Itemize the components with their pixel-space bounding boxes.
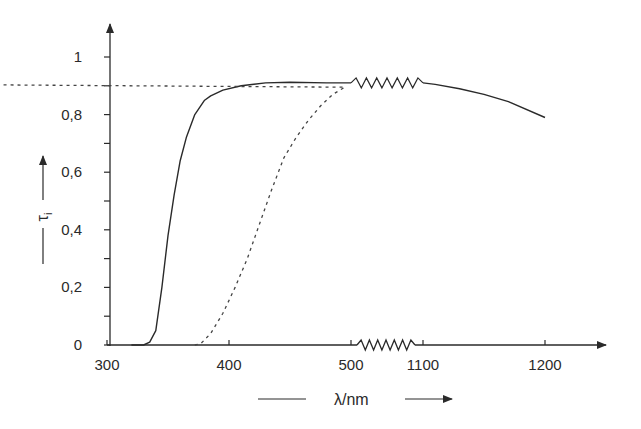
x-axis-break-zigzag [357, 340, 415, 350]
y-axis-label: τi [34, 156, 54, 264]
axes [107, 24, 606, 350]
y-tick-label: 0,8 [61, 106, 82, 123]
x-axis-label: λ/nm [258, 391, 452, 408]
x-tick-label: 400 [216, 356, 241, 373]
transmittance-chart: 00,20,40,60,81 30040050011001200 τi λ/nm [0, 0, 641, 429]
y-axis-label-text: τi [34, 213, 54, 222]
y-tick-label: 1 [74, 48, 82, 65]
curve-break-zigzag [351, 78, 423, 88]
x-tick-label: 1200 [528, 356, 561, 373]
y-ticks: 00,20,40,60,81 [61, 48, 110, 353]
x-axis-label-text: λ/nm [334, 391, 369, 408]
solid-curve-left [131, 82, 351, 345]
x-tick-label: 300 [94, 356, 119, 373]
y-tick-label: 0,4 [61, 221, 82, 238]
x-tick-label: 1100 [407, 356, 439, 373]
y-tick-label: 0,6 [61, 163, 82, 180]
solid-curve-right [423, 83, 545, 118]
y-tick-label: 0 [74, 336, 82, 353]
y-tick-label: 0,2 [61, 278, 82, 295]
x-tick-label: 500 [338, 356, 363, 373]
